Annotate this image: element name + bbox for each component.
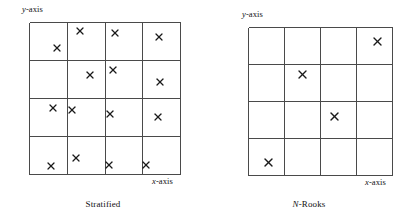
nrooks-plot-svg (248, 27, 394, 176)
sample-point (110, 67, 116, 73)
sample-point (106, 162, 112, 168)
sample-point (77, 28, 83, 34)
x-axis-suffix: -axis (156, 176, 173, 186)
sample-point (143, 162, 149, 168)
sample-point (73, 155, 79, 161)
x-axis-suffix: -axis (369, 177, 386, 187)
sample-point (157, 79, 163, 85)
sample-point (265, 159, 272, 166)
grid-stratified (29, 22, 181, 175)
caption-stratified: Stratified (0, 198, 206, 210)
y-axis-label-nrooks: y-axis (242, 9, 263, 20)
y-axis-label-stratified: y-axis (22, 4, 43, 15)
sample-point (48, 163, 54, 169)
y-axis-suffix: -axis (246, 9, 263, 19)
stratified-plot-svg (29, 22, 181, 175)
sample-point (107, 111, 113, 117)
sample-point (299, 71, 306, 78)
grid-lines-stratified (30, 23, 181, 175)
caption-nrooks: N-Rooks (206, 198, 412, 210)
sample-point (87, 72, 93, 78)
sample-point (69, 107, 75, 113)
sample-point (54, 45, 60, 51)
sample-point (156, 34, 162, 40)
sample-point (374, 38, 381, 45)
panel-stratified: y-axis (0, 0, 206, 224)
x-axis-label-nrooks: x-axis (365, 177, 386, 188)
caption-nrooks-text: -Rooks (299, 199, 326, 209)
caption-stratified-text: Stratified (86, 199, 121, 209)
sample-point (331, 113, 338, 120)
y-axis-suffix: -axis (26, 4, 43, 14)
sample-point (50, 105, 56, 111)
figure-container: y-axis (0, 0, 412, 224)
x-axis-label-stratified: x-axis (152, 176, 173, 187)
sample-point (112, 30, 118, 36)
sample-point (155, 114, 161, 120)
panel-nrooks: y-axis (206, 0, 412, 224)
grid-lines-nrooks (249, 28, 393, 176)
grid-nrooks (248, 27, 394, 176)
